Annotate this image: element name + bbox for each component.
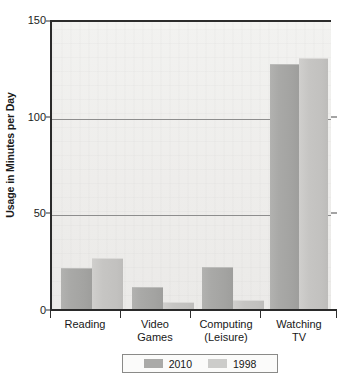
legend-label-2010: 2010	[169, 358, 192, 370]
category-label-computing-leisure: Computing (Leisure)	[188, 318, 264, 344]
category-tick-3	[260, 311, 261, 318]
y-tick-label-0: 0	[16, 304, 46, 316]
category-tick-0	[50, 311, 51, 318]
y-tick-label-100: 100	[16, 111, 46, 123]
legend-entry-1998: 1998	[208, 358, 256, 370]
legend-entry-2010: 2010	[144, 358, 192, 370]
category-label-video-games-line-1: Games	[120, 331, 190, 344]
category-label-computing-leisure-line-1: (Leisure)	[188, 331, 264, 344]
category-label-reading-line-0: Reading	[50, 318, 120, 331]
category-tick-4	[336, 311, 337, 318]
category-label-watching-tv: Watching TV	[262, 318, 336, 344]
x-axis-line	[50, 309, 337, 311]
category-label-video-games-line-0: Video	[120, 318, 190, 331]
category-label-reading: Reading	[50, 318, 120, 331]
bar-reading-1998	[92, 258, 123, 310]
y-tick-label-50: 50	[16, 207, 46, 219]
y-axis-tick-labels: 150 100 50 0	[16, 0, 46, 379]
y-tick-label-150: 150	[16, 14, 46, 26]
chart-legend: 2010 1998	[122, 354, 278, 373]
legend-swatch-2010-icon	[144, 359, 163, 368]
bar-video-games-2010	[132, 287, 163, 310]
bar-reading-2010	[61, 268, 92, 310]
bar-chart-figure: Usage in Minutes per Day 150 100 50 0	[0, 0, 351, 379]
category-label-watching-tv-line-0: Watching	[262, 318, 336, 331]
bar-watching-tv-1998	[299, 58, 328, 310]
category-label-video-games: Video Games	[120, 318, 190, 344]
bar-watching-tv-2010	[270, 64, 299, 310]
legend-swatch-1998-icon	[208, 359, 227, 368]
bars-layer	[50, 20, 331, 310]
y-axis-title-text: Usage in Minutes per Day	[4, 92, 16, 217]
legend-label-1998: 1998	[233, 358, 256, 370]
y-tick-mark-right-100	[331, 117, 337, 118]
bar-computing-leisure-2010	[202, 267, 233, 310]
category-label-computing-leisure-line-0: Computing	[188, 318, 264, 331]
category-tick-2	[190, 311, 191, 318]
category-label-watching-tv-line-1: TV	[262, 331, 336, 344]
y-tick-mark-right-50	[331, 213, 337, 214]
category-tick-1	[120, 311, 121, 318]
